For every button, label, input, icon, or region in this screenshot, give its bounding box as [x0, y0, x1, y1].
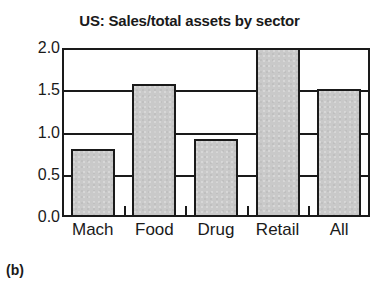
x-axis-label-retail: Retail	[247, 221, 309, 240]
bar-drug	[194, 139, 238, 217]
y-axis-tick-label: 0.5	[38, 167, 60, 183]
y-axis-tick-label: 0.0	[38, 209, 60, 225]
x-axis-minor-tick	[124, 206, 126, 217]
x-axis-minor-tick	[185, 206, 187, 217]
x-axis-label-food: Food	[124, 221, 186, 240]
panel-caption: (b)	[6, 262, 24, 278]
chart-title: US: Sales/total assets by sector	[0, 12, 379, 29]
bar-retail	[256, 48, 300, 217]
x-axis-minor-tick	[308, 206, 310, 217]
y-axis-tick-label: 1.0	[38, 125, 60, 141]
bar-food	[132, 84, 176, 217]
bar-all	[317, 89, 361, 217]
x-axis-label-drug: Drug	[185, 221, 247, 240]
bar-mach	[71, 149, 115, 217]
x-axis-minor-tick	[247, 206, 249, 217]
x-axis-label-mach: Mach	[62, 221, 124, 240]
y-axis-tick-label: 1.5	[38, 82, 60, 98]
figure-panel-b: US: Sales/total assets by sector 2.0 1.5…	[0, 0, 379, 299]
y-axis-tick-label: 2.0	[38, 40, 60, 56]
bars-layer	[62, 48, 370, 217]
x-axis-label-all: All	[308, 221, 370, 240]
